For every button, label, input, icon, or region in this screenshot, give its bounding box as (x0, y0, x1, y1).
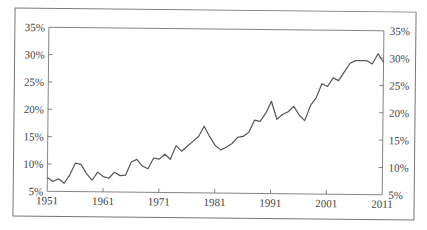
x-axis: 1951196119711981199120012011 (36, 187, 393, 210)
right-tick-label: 10% (388, 162, 408, 174)
right-tick-label: 25% (389, 80, 409, 92)
x-tick-label: 1991 (259, 196, 281, 208)
right-tick-label: 20% (389, 107, 409, 119)
line-chart: 5%10%15%20%25%30%35% 5%10%15%20%25%30%35… (0, 0, 427, 230)
left-tick-label: 30% (24, 48, 44, 60)
right-tick-label: 30% (390, 52, 410, 64)
left-tick-label: 15% (24, 130, 44, 142)
data-series-line (47, 50, 383, 186)
x-tick-label: 1971 (148, 195, 170, 207)
left-tick-label: 25% (24, 76, 44, 88)
x-tick-label: 1981 (204, 196, 226, 208)
left-tick-label: 35% (25, 21, 45, 33)
left-tick-label: 20% (24, 103, 44, 115)
right-tick-label: 15% (389, 134, 409, 146)
plot-area (47, 27, 384, 194)
right-y-axis: 5%10%15%20%25%30%35% (378, 25, 410, 201)
chart-figure: 5%10%15%20%25%30%35% 5%10%15%20%25%30%35… (0, 0, 427, 230)
x-tick-label: 1951 (36, 194, 58, 206)
x-tick-label: 2001 (315, 197, 337, 209)
right-tick-label: 35% (390, 25, 410, 37)
outer-frame (13, 8, 416, 220)
x-tick-label: 2011 (371, 198, 393, 210)
x-tick-label: 1961 (92, 195, 114, 207)
left-tick-label: 10% (23, 158, 43, 170)
